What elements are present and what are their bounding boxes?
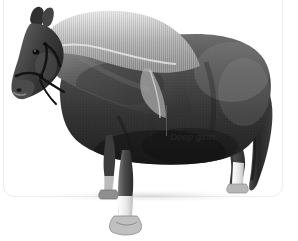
foreleg-far-hoof — [99, 190, 119, 199]
halter-buckle — [43, 42, 47, 46]
eye-glint — [34, 50, 36, 52]
annotation-label-deep-girth: Deep girth — [170, 131, 215, 142]
halter-ring — [39, 75, 43, 79]
hind-hoof — [227, 184, 249, 193]
figure-container: Deep girth — [0, 0, 298, 241]
horse-photograph — [0, 0, 298, 241]
foreleg-near-hoof — [110, 216, 142, 235]
eye — [33, 49, 40, 54]
annotation-leader-line — [166, 105, 167, 136]
ear-far — [42, 7, 54, 27]
foreleg-near-sock — [118, 196, 133, 219]
hind-leg-sock — [232, 162, 244, 186]
nostril — [16, 88, 21, 92]
muzzle — [13, 80, 34, 99]
foreleg-far-sock — [104, 176, 114, 192]
